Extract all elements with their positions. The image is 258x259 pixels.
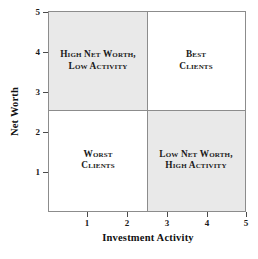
y-axis-tick-4 [43, 52, 48, 53]
plot-area: High Net Worth, Low Activity Best Client… [48, 11, 246, 212]
quadrant-divider-vertical [147, 12, 148, 211]
y-axis-tick-label-1: 1 [28, 167, 40, 177]
quadrant-divider-horizontal [49, 110, 245, 111]
x-axis-tick-1 [87, 212, 88, 217]
quadrant-high-net-worth-low-activity: High Net Worth, Low Activity [49, 12, 147, 110]
x-axis-tick-2 [127, 212, 128, 217]
quadrant-worst-clients: Worst Clients [49, 110, 147, 211]
quadrant-label-high-net-worth-low-activity: High Net Worth, Low Activity [57, 49, 139, 72]
x-axis-tick-label-1: 1 [80, 218, 94, 228]
y-axis-tick-1 [43, 172, 48, 173]
x-axis-tick-4 [207, 212, 208, 217]
x-axis-tick-3 [167, 212, 168, 217]
x-axis-tick-label-5: 5 [239, 218, 253, 228]
y-axis-tick-label-2: 2 [28, 127, 40, 137]
quadrant-chart: High Net Worth, Low Activity Best Client… [0, 0, 258, 259]
x-axis-tick-label-3: 3 [160, 218, 174, 228]
x-axis-tick-5 [246, 212, 247, 217]
y-axis-tick-label-3: 3 [28, 87, 40, 97]
quadrant-best-clients: Best Clients [147, 12, 245, 110]
y-axis-title: Net Worth [9, 67, 20, 157]
y-axis-tick-2 [43, 132, 48, 133]
y-axis-tick-label-4: 4 [28, 47, 40, 57]
x-axis-title: Investment Activity [49, 232, 247, 243]
y-axis-tick-5 [43, 12, 48, 13]
x-axis-tick-label-4: 4 [200, 218, 214, 228]
quadrant-label-worst-clients: Worst Clients [78, 149, 117, 172]
x-axis-tick-label-2: 2 [120, 218, 134, 228]
y-axis-tick-3 [43, 92, 48, 93]
quadrant-label-low-net-worth-high-activity: Low Net Worth, High Activity [156, 149, 235, 172]
quadrant-label-best-clients: Best Clients [176, 49, 215, 72]
quadrant-low-net-worth-high-activity: Low Net Worth, High Activity [147, 110, 245, 211]
y-axis-tick-label-5: 5 [28, 7, 40, 17]
